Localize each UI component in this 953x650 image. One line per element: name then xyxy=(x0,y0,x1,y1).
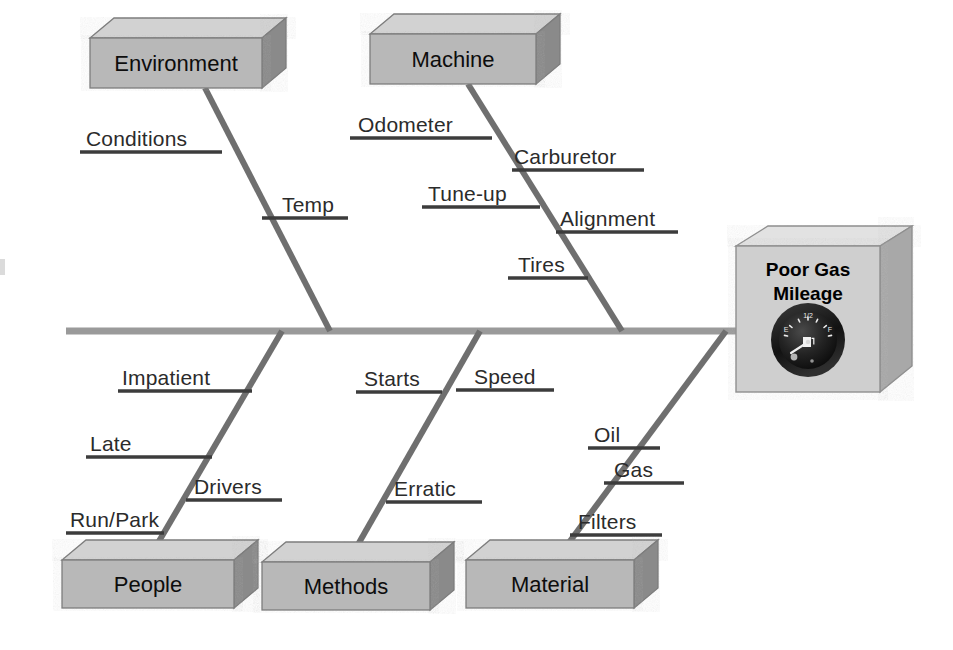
effect-title-line2: Mileage xyxy=(773,283,843,304)
category-box-material[interactable]: Material xyxy=(466,540,658,608)
cause-label-people-2: Drivers xyxy=(194,475,262,498)
category-label-environment: Environment xyxy=(114,51,238,76)
gauge-highlight-right xyxy=(810,359,814,363)
category-box-top-face xyxy=(90,18,286,38)
cause-label-material-1: Gas xyxy=(614,458,653,481)
cause-label-people-0: Impatient xyxy=(122,366,210,389)
cause-label-methods-2: Erratic xyxy=(394,477,456,500)
category-label-people: People xyxy=(114,572,183,597)
category-label-machine: Machine xyxy=(411,47,494,72)
cause-label-environment-0: Conditions xyxy=(86,127,187,150)
category-box-top-face xyxy=(466,540,658,560)
cause-label-methods-1: Starts xyxy=(364,367,420,390)
category-box-people[interactable]: People xyxy=(62,540,258,608)
fishbone-canvas: EnvironmentMachinePeopleMethodsMaterial … xyxy=(0,0,953,650)
gauge-highlight-left xyxy=(791,354,798,361)
effect-title-line1: Poor Gas xyxy=(766,259,850,280)
cause-label-machine-0: Odometer xyxy=(358,113,453,136)
cause-label-machine-2: Tune-up xyxy=(428,182,507,205)
gauge-full-label: F xyxy=(828,326,832,333)
bone-methods xyxy=(348,331,480,562)
category-box-environment[interactable]: Environment xyxy=(90,18,286,88)
category-label-methods: Methods xyxy=(304,574,388,599)
cause-label-machine-3: Alignment xyxy=(560,207,655,230)
category-label-material: Material xyxy=(511,572,589,597)
scan-artifact xyxy=(0,259,5,275)
cause-label-material-0: Oil xyxy=(594,423,620,446)
effect-box: Poor Gas Mileage E 1/2 F xyxy=(736,226,912,392)
fishbone-diagram: EnvironmentMachinePeopleMethodsMaterial … xyxy=(0,0,953,650)
gauge-needle-hub xyxy=(806,340,810,344)
category-box-top-face xyxy=(62,540,258,560)
category-box-machine[interactable]: Machine xyxy=(370,14,560,84)
cause-label-material-2: Filters xyxy=(578,510,637,533)
category-box-methods[interactable]: Methods xyxy=(262,542,454,610)
category-box-top-face xyxy=(262,542,454,562)
category-box-top-face xyxy=(370,14,560,34)
cause-labels: ConditionsTempOdometerCarburetorTune-upA… xyxy=(70,113,655,533)
cause-label-methods-0: Speed xyxy=(474,365,536,388)
cause-label-people-3: Run/Park xyxy=(70,508,159,531)
cause-label-machine-4: Tires xyxy=(518,253,565,276)
cause-lines xyxy=(66,138,684,535)
gauge-half-label: 1/2 xyxy=(803,312,813,319)
cause-label-environment-1: Temp xyxy=(282,193,334,216)
cause-label-machine-1: Carburetor xyxy=(514,145,616,168)
fuel-gauge-icon: E 1/2 F xyxy=(771,303,845,377)
effect-box-side-face xyxy=(880,226,912,392)
cause-label-people-1: Late xyxy=(90,432,132,455)
gauge-empty-label: E xyxy=(784,326,789,333)
